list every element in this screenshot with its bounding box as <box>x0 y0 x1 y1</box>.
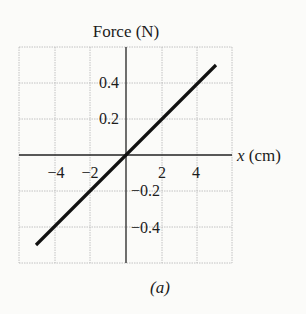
x-axis-label: x (cm) <box>236 146 281 165</box>
x-axis-unit: (cm) <box>245 146 281 165</box>
force-displacement-chart: Force (N) x (cm) −4 −2 2 4 0.4 0.2 −0.2 … <box>0 0 306 314</box>
x-tick-label: 2 <box>158 164 166 181</box>
y-tick-label: −0.2 <box>131 182 160 199</box>
y-tick-label: 0.2 <box>99 110 119 127</box>
x-tick-label: 4 <box>192 164 200 181</box>
x-tick-label: −4 <box>47 164 64 181</box>
x-tick-label: −2 <box>81 164 98 181</box>
y-tick-label: 0.4 <box>99 74 119 91</box>
y-tick-label: −0.4 <box>131 219 160 236</box>
chart-title: Force (N) <box>93 22 160 41</box>
figure-caption: (a) <box>150 278 170 297</box>
